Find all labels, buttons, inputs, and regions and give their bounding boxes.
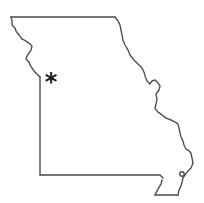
state-outline-map [0,0,204,203]
bootheel-west-border [155,180,162,195]
river-oxbow [180,172,184,176]
asterisk-marker-icon: * [42,70,60,92]
northwest-river-border [11,17,40,77]
south-border [40,175,163,178]
east-river-border [115,17,193,195]
